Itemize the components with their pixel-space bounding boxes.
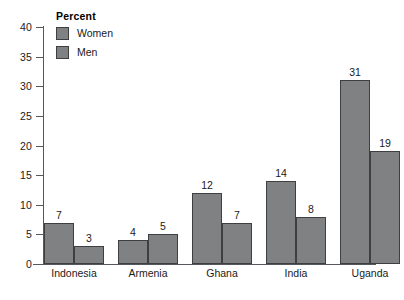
bar-group-india: 14 8 <box>266 27 326 264</box>
bar-value-armenia-women: 4 <box>118 227 148 238</box>
bar-armenia-women[interactable] <box>118 240 148 264</box>
y-tick-20 <box>36 146 44 147</box>
bar-group-armenia: 4 5 <box>118 27 178 264</box>
bar-india-women[interactable] <box>266 181 296 264</box>
y-tick-label-35: 35 <box>20 52 32 63</box>
x-label-uganda: Uganda <box>325 268 404 279</box>
bar-armenia-men[interactable] <box>148 234 178 264</box>
bar-value-uganda-men: 19 <box>370 138 400 149</box>
bar-value-armenia-men: 5 <box>148 221 178 232</box>
y-tick-15 <box>36 175 44 176</box>
y-tick-35 <box>36 57 44 58</box>
y-tick-label-40: 40 <box>20 22 32 33</box>
y-tick-10 <box>36 205 44 206</box>
bar-value-ghana-men: 7 <box>222 210 252 221</box>
bar-value-ghana-women: 12 <box>192 180 222 191</box>
bar-indonesia-men[interactable] <box>74 246 104 264</box>
y-tick-label-30: 30 <box>20 81 32 92</box>
bar-group-ghana: 12 7 <box>192 27 252 264</box>
y-tick-label-25: 25 <box>20 111 32 122</box>
bar-group-indonesia: 7 3 <box>44 27 104 264</box>
bar-india-men[interactable] <box>296 217 326 264</box>
bar-value-indonesia-men: 3 <box>74 233 104 244</box>
y-tick-label-20: 20 <box>20 141 32 152</box>
y-tick-label-15: 15 <box>20 170 32 181</box>
legend-title: Percent <box>56 11 113 22</box>
bar-value-uganda-women: 31 <box>340 67 370 78</box>
bar-group-uganda: 31 19 <box>340 27 400 264</box>
bar-indonesia-women[interactable] <box>44 223 74 265</box>
bar-value-indonesia-women: 7 <box>44 210 74 221</box>
plot-area: 7 3 4 5 12 7 14 8 31 <box>44 27 376 264</box>
bar-uganda-men[interactable] <box>370 151 400 264</box>
y-tick-label-5: 5 <box>26 229 32 240</box>
y-tick-0 <box>36 264 44 265</box>
y-tick-label-10: 10 <box>20 200 32 211</box>
x-axis-line <box>33 264 376 265</box>
y-tick-30 <box>36 86 44 87</box>
bar-ghana-women[interactable] <box>192 193 222 264</box>
bar-value-india-women: 14 <box>266 168 296 179</box>
bar-ghana-men[interactable] <box>222 223 252 265</box>
y-tick-5 <box>36 234 44 235</box>
bar-value-india-men: 8 <box>296 204 326 215</box>
y-tick-25 <box>36 116 44 117</box>
y-tick-40 <box>36 27 44 28</box>
bar-uganda-women[interactable] <box>340 80 370 264</box>
